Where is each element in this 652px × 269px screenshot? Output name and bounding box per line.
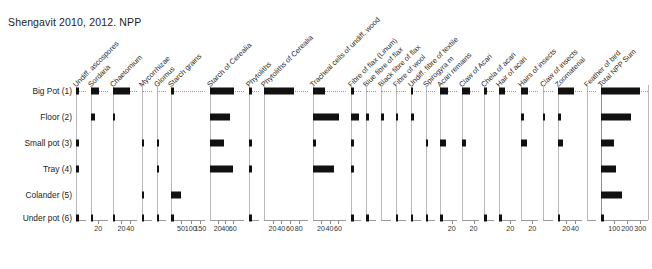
bar: [313, 140, 316, 147]
taxon-column: 2040: [113, 88, 137, 220]
column-axis-line: [249, 85, 250, 220]
axis-tick-label: 20: [94, 224, 102, 233]
bar: [171, 192, 181, 199]
plot-panel: 2020405010015020406020406080204060202020…: [76, 88, 648, 220]
bar: [396, 215, 399, 222]
taxon-column: [426, 88, 436, 220]
axis-tick-label: 20: [528, 224, 536, 233]
taxon-column: 20: [91, 88, 108, 220]
taxon-column: 20406080: [264, 88, 308, 220]
column-baseline: [543, 220, 553, 221]
top-guide-line: [396, 91, 406, 92]
column-axis-line: [499, 85, 500, 220]
row-label: Tray (4): [43, 164, 72, 174]
bar: [171, 215, 174, 222]
bar: [76, 166, 79, 173]
bar: [91, 88, 99, 95]
taxon-column: [396, 88, 406, 220]
bar: [76, 88, 79, 95]
bar: [411, 215, 414, 222]
bar: [558, 114, 561, 121]
axis-tick-label: 150: [194, 224, 206, 233]
bar: [351, 215, 354, 222]
bar: [313, 166, 334, 173]
column-baseline: [381, 220, 391, 221]
axis-tick-label: 20: [448, 224, 456, 233]
bar: [210, 166, 233, 173]
bar: [521, 88, 528, 95]
axis-tick-label: 40: [326, 224, 334, 233]
taxon-column: [381, 88, 391, 220]
bar: [76, 215, 79, 222]
bar: [462, 140, 465, 147]
bar: [601, 166, 616, 173]
taxon-column: [142, 88, 152, 220]
bar: [499, 215, 502, 222]
top-guide-line: [171, 91, 205, 92]
axis-tick-label: 80: [295, 224, 303, 233]
bar: [484, 88, 487, 95]
taxon-column: 100200300: [601, 88, 648, 220]
taxon-column: [587, 88, 597, 220]
bar: [249, 88, 252, 95]
axis-tick-label: 60: [229, 224, 237, 233]
bar: [601, 88, 640, 95]
column-baseline: [264, 220, 308, 221]
bar: [558, 140, 564, 147]
bar: [76, 140, 79, 147]
column-baseline: [462, 220, 479, 221]
column-axis-line: [440, 85, 441, 220]
taxon-column: [543, 88, 553, 220]
bar: [142, 192, 145, 199]
bar: [521, 114, 524, 121]
taxon-column: [411, 88, 421, 220]
top-guide-line: [381, 91, 391, 92]
bar: [142, 215, 145, 222]
axis-tick-label: 100: [608, 224, 620, 233]
bar: [426, 140, 429, 147]
top-guide-line: [157, 91, 167, 92]
bar: [440, 88, 448, 95]
taxon-column: 20: [440, 88, 457, 220]
column-axis-line: [381, 85, 382, 220]
axis-tick-label: 20: [470, 224, 478, 233]
top-guide-line: [587, 91, 597, 92]
bar: [484, 215, 487, 222]
column-axis-line: [157, 85, 158, 220]
bar: [351, 166, 354, 173]
bar: [142, 140, 145, 147]
bar: [210, 88, 233, 95]
taxon-column: [366, 88, 376, 220]
row-label-axis: Big Pot (1)Floor (2)Small pot (3)Tray (4…: [0, 88, 76, 220]
bar: [249, 215, 252, 222]
bar: [411, 114, 414, 121]
bar: [381, 114, 384, 121]
column-axis-line: [601, 85, 602, 220]
column-axis-line: [142, 85, 143, 220]
bar: [601, 140, 614, 147]
bar: [351, 140, 354, 147]
taxon-column: 20: [462, 88, 479, 220]
axis-tick-label: 200: [621, 224, 633, 233]
axis-tick-label: 40: [571, 224, 579, 233]
bar: [411, 88, 414, 95]
bar: [91, 114, 95, 121]
axis-tick-label: 20: [117, 224, 125, 233]
axis-tick-label: 60: [334, 224, 342, 233]
column-baseline: [210, 220, 244, 221]
column-axis-line-right: [648, 85, 649, 220]
row-label: Big Pot (1): [32, 86, 72, 96]
taxon-column: [351, 88, 361, 220]
column-axis-line: [587, 85, 588, 220]
chart-figure: Shengavit 2010, 2012. NPP Big Pot (1)Flo…: [0, 0, 652, 269]
axis-tick-label: 300: [634, 224, 646, 233]
column-axis-line: [313, 85, 314, 220]
bar: [264, 88, 294, 95]
bar: [440, 215, 443, 222]
row-label: Colander (5): [25, 190, 72, 200]
taxon-column: [249, 88, 259, 220]
bar: [171, 88, 174, 95]
axis-tick-label: 20: [269, 224, 277, 233]
bar: [366, 215, 369, 222]
bar: [113, 114, 116, 121]
